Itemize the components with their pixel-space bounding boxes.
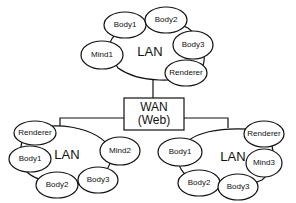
left-lan-node-mind2: Mind2 xyxy=(100,137,140,165)
top-lan-label: LAN xyxy=(137,44,162,59)
left-lan-node-body3: Body3 xyxy=(78,167,118,193)
top-lan-node-renderer: Renderer xyxy=(165,60,207,86)
svg-text:Body2: Body2 xyxy=(155,15,178,24)
left-lan-node-body1: Body1 xyxy=(9,146,51,172)
svg-text:Mind1: Mind1 xyxy=(91,50,113,59)
wan-sublabel: (Web) xyxy=(138,113,170,127)
top-lan-node-body1: Body1 xyxy=(104,12,146,38)
network-diagram: WAN (Web) Body1 Body2 Body3 Mind1 Render… xyxy=(0,0,296,203)
top-lan-node-body2: Body2 xyxy=(145,7,187,33)
svg-text:Renderer: Renderer xyxy=(18,128,52,137)
svg-text:Body1: Body1 xyxy=(19,154,42,163)
wan-label: WAN xyxy=(140,100,168,114)
svg-text:Renderer: Renderer xyxy=(247,129,281,138)
top-lan-node-mind1: Mind1 xyxy=(81,41,123,69)
svg-text:Renderer: Renderer xyxy=(169,68,203,77)
svg-text:Mind2: Mind2 xyxy=(109,146,131,155)
svg-text:Body1: Body1 xyxy=(169,147,192,156)
svg-text:Body3: Body3 xyxy=(227,182,250,191)
svg-text:Body3: Body3 xyxy=(87,175,110,184)
right-lan-label: LAN xyxy=(220,149,245,164)
right-lan-node-renderer: Renderer xyxy=(244,121,284,147)
left-lan-node-renderer: Renderer xyxy=(14,121,56,145)
svg-text:Body3: Body3 xyxy=(182,40,205,49)
svg-text:Body2: Body2 xyxy=(46,180,69,189)
top-lan-node-body3: Body3 xyxy=(173,31,213,59)
right-lan-wan-link xyxy=(184,118,228,128)
right-lan-node-body1: Body1 xyxy=(158,138,202,166)
right-lan-node-body2: Body2 xyxy=(178,170,220,196)
left-lan-node-body2: Body2 xyxy=(36,172,78,198)
svg-text:Body2: Body2 xyxy=(188,178,211,187)
svg-text:Body1: Body1 xyxy=(114,20,137,29)
svg-text:Mind3: Mind3 xyxy=(253,158,275,167)
left-lan-wan-link xyxy=(60,118,124,126)
right-lan-node-body3: Body3 xyxy=(218,174,258,200)
right-lan-node-mind3: Mind3 xyxy=(246,149,282,177)
left-lan-label: LAN xyxy=(54,147,79,162)
